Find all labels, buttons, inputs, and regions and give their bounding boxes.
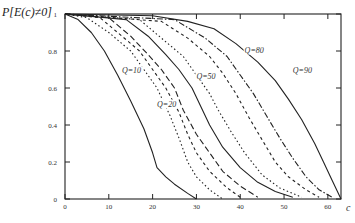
series-line-q-60 [65,14,302,197]
x-tick-label: 20 [149,203,157,211]
line-chart: 010203040506000.20.40.60.81cQ=10Q=20Q=50… [0,0,355,223]
series-line-q-20 [65,14,223,199]
x-tick-label: 30 [193,203,201,211]
series-line-q-70 [65,14,319,197]
x-axis-label: c [346,202,351,213]
curve-label: Q=20 [157,100,176,109]
x-tick-label: 40 [237,203,245,211]
x-tick-label: 60 [324,203,332,211]
y-tick-label: 0.2 [48,159,57,167]
y-tick-label: 1 [54,11,58,19]
curve-label: Q=50 [196,72,215,81]
plot-frame [65,14,341,199]
series-line-q-90 [65,14,341,199]
y-tick-label: 0.4 [48,122,57,130]
x-tick-label: 0 [63,203,67,211]
y-tick-label: 0.8 [48,48,57,56]
curve-label: Q=80 [245,46,264,55]
curve-label: Q=90 [293,66,312,75]
x-tick-label: 50 [281,203,289,211]
y-tick-label: 0.6 [48,85,57,93]
curve-label: Q=10 [122,66,141,75]
x-tick-label: 10 [105,203,113,211]
y-tick-label: 0 [54,196,58,204]
